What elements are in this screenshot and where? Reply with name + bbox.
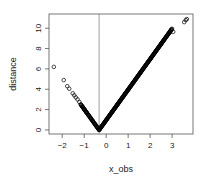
data-point <box>52 65 56 69</box>
y-tick-label: 10 <box>34 23 43 32</box>
x-tick-label: 1 <box>126 141 131 150</box>
y-tick-label: 4 <box>34 86 43 91</box>
data-point <box>62 78 66 82</box>
scatter-chart: −2−101230246810 x_obs distance <box>0 0 204 179</box>
y-tick-label: 6 <box>34 66 43 71</box>
x-tick-label: −1 <box>80 141 90 150</box>
y-tick-label: 0 <box>34 127 43 132</box>
x-axis-label: x_obs <box>109 164 134 174</box>
x-tick-label: −2 <box>58 141 68 150</box>
x-tick-label: 0 <box>104 141 109 150</box>
plot-area: −2−101230246810 <box>34 14 193 150</box>
y-axis-label: distance <box>8 57 18 91</box>
data-point <box>67 87 71 91</box>
y-tick-label: 2 <box>34 107 43 112</box>
x-tick-label: 3 <box>170 141 175 150</box>
x-tick-label: 2 <box>148 141 153 150</box>
y-tick-label: 8 <box>34 46 43 51</box>
